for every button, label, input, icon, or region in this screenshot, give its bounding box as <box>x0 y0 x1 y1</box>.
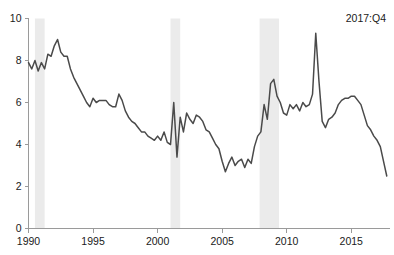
x-tick-label: 2015 <box>340 235 364 247</box>
series-line <box>29 33 387 176</box>
y-tick-label: 10 <box>10 12 22 24</box>
x-tick-label: 1990 <box>17 235 41 247</box>
y-tick-label: 0 <box>16 222 22 234</box>
x-tick-label: 2000 <box>146 235 170 247</box>
line-chart: 0246810199019952000200520102015 2017:Q4 <box>0 0 394 255</box>
y-tick-label: 6 <box>16 96 22 108</box>
y-tick-label: 8 <box>16 54 22 66</box>
series-group <box>29 33 387 176</box>
y-tick-label: 2 <box>16 180 22 192</box>
recession-bands-group <box>35 19 279 229</box>
chart-container: 0246810199019952000200520102015 2017:Q4 <box>0 0 394 255</box>
tick-labels-group: 0246810199019952000200520102015 <box>10 12 363 246</box>
x-tick-label: 2005 <box>210 235 234 247</box>
axes-group <box>25 19 391 233</box>
recession-band <box>35 19 45 229</box>
annotation-2017q4: 2017:Q4 <box>346 12 386 24</box>
y-tick-label: 4 <box>16 138 22 150</box>
x-tick-label: 1995 <box>81 235 105 247</box>
x-tick-label: 2010 <box>275 235 299 247</box>
